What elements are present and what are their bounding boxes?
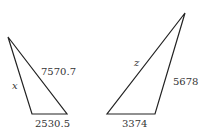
left-side-x-label: x — [12, 80, 18, 91]
left-hyp-label: 7570.7 — [41, 66, 76, 77]
diagram-canvas: 7570.7 x 2530.5 z 5678 3374 — [0, 0, 202, 135]
right-triangle — [107, 13, 185, 114]
right-bottom-label: 3374 — [122, 118, 147, 129]
left-bottom-label: 2530.5 — [35, 118, 70, 129]
right-side-label: 5678 — [173, 76, 198, 87]
right-hyp-z-label: z — [133, 57, 140, 68]
